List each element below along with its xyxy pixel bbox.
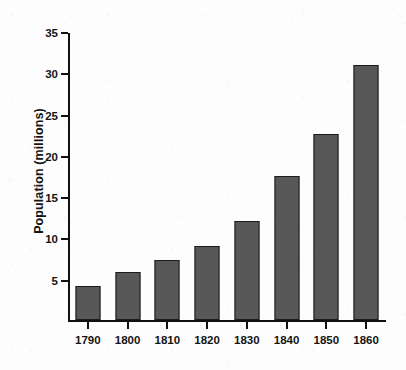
x-tick-mark	[206, 322, 208, 329]
y-axis-line	[68, 33, 70, 322]
y-tick-mark	[61, 156, 68, 158]
bar	[155, 260, 180, 320]
x-tick-mark	[87, 322, 89, 329]
y-tick-label: 20	[45, 151, 58, 163]
bar	[115, 272, 140, 320]
y-tick-label: 5	[52, 275, 58, 287]
x-tick-label: 1790	[75, 334, 101, 346]
x-tick-label: 1810	[155, 334, 181, 346]
y-tick-mark	[61, 115, 68, 117]
x-tick-mark	[286, 322, 288, 329]
x-tick-mark	[166, 322, 168, 329]
y-tick-mark	[61, 32, 68, 34]
y-tick-mark	[61, 73, 68, 75]
x-axis-line	[68, 320, 386, 322]
bar	[314, 134, 339, 320]
y-tick-label: 15	[45, 192, 58, 204]
x-tick-label: 1850	[314, 334, 340, 346]
bar	[354, 65, 379, 320]
x-tick-label: 1840	[274, 334, 300, 346]
x-tick-label: 1830	[234, 334, 260, 346]
y-tick-mark	[61, 197, 68, 199]
bar	[234, 221, 259, 320]
y-tick-label: 35	[45, 27, 58, 39]
x-tick-mark	[127, 322, 129, 329]
x-tick-mark	[325, 322, 327, 329]
x-tick-mark	[246, 322, 248, 329]
y-tick-label: 30	[45, 68, 58, 80]
y-axis-title: Population (millions)	[32, 46, 46, 296]
y-tick-label: 10	[45, 233, 58, 245]
plot-area: 5101520253035 17901800181018201830184018…	[68, 33, 386, 322]
x-tick-label: 1820	[194, 334, 220, 346]
y-tick-label: 25	[45, 110, 58, 122]
bar	[274, 176, 299, 321]
y-tick-mark	[61, 280, 68, 282]
bar	[195, 246, 220, 320]
x-tick-mark	[365, 322, 367, 329]
x-tick-label: 1800	[115, 334, 141, 346]
population-bar-chart: Population (millions) 5101520253035 1790…	[0, 0, 406, 370]
bar	[75, 286, 100, 320]
y-tick-mark	[61, 238, 68, 240]
x-tick-label: 1860	[353, 334, 379, 346]
